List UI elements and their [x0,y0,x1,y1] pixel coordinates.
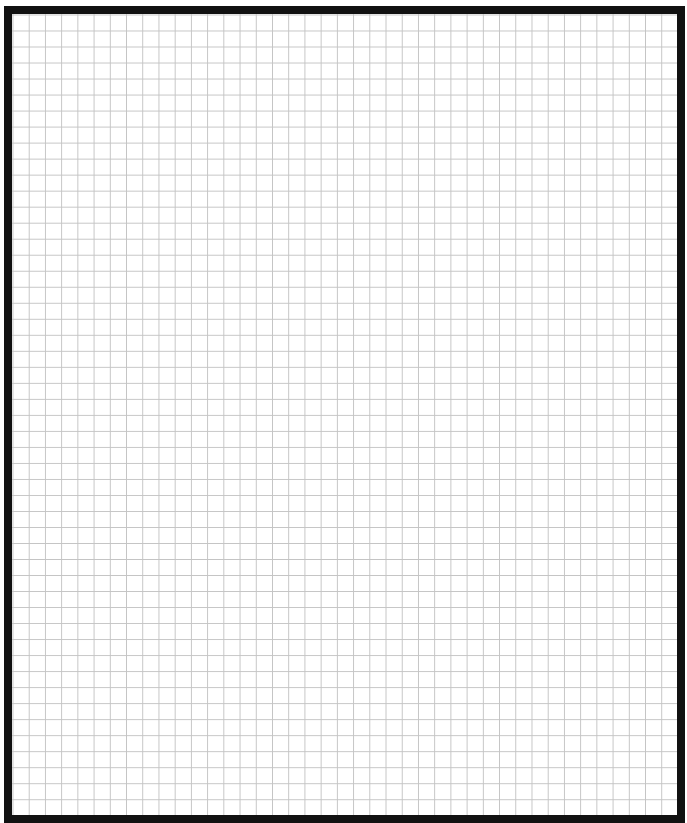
grid-paper-sheet [4,6,685,823]
